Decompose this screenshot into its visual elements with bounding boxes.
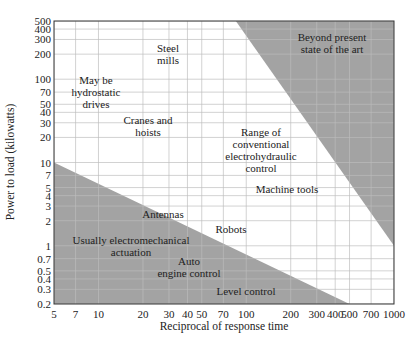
svg-text:control: control [245,162,276,174]
x-tick-label: 700 [363,308,380,320]
y-tick-label: 5 [46,182,52,194]
y-tick-label: 100 [35,73,52,85]
x-tick-label: 5 [51,308,57,320]
y-tick-label: 0.5 [37,265,51,277]
x-tick-label: 40 [182,308,194,320]
x-axis-title: Reciprocal of response time [160,320,289,333]
chart: 0.20.30.40.50.71234571020304050701002003… [0,0,418,348]
y-axis-title: Power to load (kilowatts) [4,104,17,221]
y-tick-label: 2 [46,215,52,227]
annotation-level-control: Level control [217,285,276,297]
y-tick-label: 20 [40,131,52,143]
svg-text:Cranes and: Cranes and [123,114,173,126]
svg-text:hydrostatic: hydrostatic [72,86,121,98]
y-tick-label: 10 [40,157,52,169]
svg-text:actuation: actuation [111,246,152,258]
x-tick-label: 7 [73,308,79,320]
y-tick-label: 30 [40,117,52,129]
x-tick-label: 70 [218,308,230,320]
y-tick-label: 50 [40,98,52,110]
annotation-machine-tools: Machine tools [256,183,319,195]
y-tick-label: 1 [46,240,52,252]
y-tick-label: 70 [40,86,52,98]
x-tick-label: 10 [93,308,105,320]
x-tick-label: 500 [341,308,358,320]
y-tick-label: 7 [46,169,52,181]
svg-text:engine control: engine control [157,267,220,279]
x-tick-label: 1000 [383,308,406,320]
plot-area [54,21,394,304]
svg-text:hoists: hoists [135,126,161,138]
annotation-antennas: Antennas [142,208,184,220]
y-tick-label: 300 [35,33,52,45]
annotation-steel-mills: Steel mills [157,42,179,66]
svg-text:electrohydraulic: electrohydraulic [225,150,297,162]
annotation-cranes-hoists: Cranes and hoists [123,114,173,138]
x-axis-ticks: 571020304050701002003004005007001000 [51,308,405,320]
x-tick-label: 100 [238,308,255,320]
svg-text:Range of: Range of [241,126,281,138]
x-tick-label: 200 [282,308,299,320]
annotation-electrohydraulic-range: Range of conventional electrohydraulic c… [225,126,297,174]
x-tick-label: 20 [137,308,149,320]
y-axis-ticks: 0.20.30.40.50.71234571020304050701002003… [35,15,52,310]
svg-text:mills: mills [157,54,179,66]
svg-text:drives: drives [83,98,110,110]
y-tick-label: 0.2 [37,298,51,310]
y-tick-label: 500 [35,15,52,27]
svg-text:May be: May be [79,74,112,86]
x-tick-label: 50 [196,308,208,320]
annotation-beyond-state-of-art: Beyond present state of the art [298,31,367,55]
svg-text:conventional: conventional [233,138,290,150]
x-tick-label: 30 [163,308,175,320]
y-tick-label: 3 [46,200,52,212]
svg-text:Usually electromechanical: Usually electromechanical [73,234,190,246]
y-tick-label: 0.3 [37,283,51,295]
svg-text:Auto: Auto [178,255,201,267]
x-tick-label: 300 [308,308,325,320]
y-tick-label: 0.7 [37,253,51,265]
annotation-robots: Robots [215,223,246,235]
svg-text:state of the art: state of the art [301,43,364,55]
y-tick-label: 200 [35,48,52,60]
svg-text:Beyond present: Beyond present [298,31,367,43]
svg-text:Steel: Steel [157,42,179,54]
